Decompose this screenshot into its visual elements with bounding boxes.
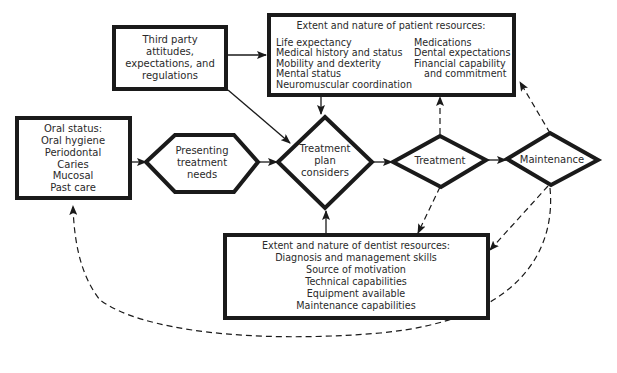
patient-resource-item: Neuromuscular coordination (276, 79, 412, 90)
edge-maintenance-to-dentist-resources (490, 186, 548, 250)
presenting-line: Presenting (176, 145, 229, 156)
presenting-line: needs (187, 169, 217, 180)
node-treatment: Treatment (393, 136, 486, 187)
dentist-resource-item: Maintenance capabilities (296, 300, 415, 311)
third-party-line: expectations, and (125, 58, 214, 69)
node-treatment-plan: Treatment plan considers (278, 117, 372, 208)
treatment-plan-line: considers (301, 167, 349, 178)
edge-treatment-to-dentist-resources (418, 187, 440, 233)
third-party-line: regulations (142, 70, 198, 81)
node-third-party: Third party attitudes, expectations, and… (114, 27, 226, 89)
presenting-line: treatment (177, 157, 227, 168)
node-maintenance: Maintenance (507, 133, 598, 185)
treatment-plan-line: Treatment (299, 143, 351, 154)
oral-status-line: Periodontal (45, 147, 101, 158)
maintenance-label: Maintenance (520, 154, 584, 165)
patient-resource-item: Dental expectations (414, 47, 510, 58)
oral-status-line: Past care (50, 182, 96, 193)
node-dentist-resources: Extent and nature of dentist resources: … (225, 235, 488, 318)
patient-resources-title: Extent and nature of patient resources: (296, 20, 485, 31)
patient-resource-item: and commitment (424, 68, 507, 79)
dentist-resource-item: Technical capabilities (304, 276, 407, 287)
edge-maintenance-to-patient-resources (520, 82, 550, 133)
node-patient-resources: Extent and nature of patient resources: … (269, 15, 514, 95)
treatment-label: Treatment (414, 155, 466, 166)
patient-resource-item: Medical history and status (276, 47, 402, 58)
dentist-resources-title: Extent and nature of dentist resources: (262, 240, 450, 251)
oral-status-line: Caries (57, 159, 88, 170)
oral-status-line: Oral status: (44, 123, 102, 134)
dentist-resource-item: Source of motivation (306, 264, 406, 275)
patient-resource-item: Mental status (276, 68, 341, 79)
oral-status-line: Mucosal (53, 170, 94, 181)
edge-third-party-to-treatment-plan (228, 90, 290, 143)
flowchart-canvas: Third party attitudes, expectations, and… (0, 0, 617, 373)
third-party-line: Third party (141, 34, 197, 45)
treatment-plan-line: plan (314, 155, 336, 166)
node-oral-status: Oral status: Oral hygiene Periodontal Ca… (17, 118, 130, 198)
node-presenting-treatment-needs: Presenting treatment needs (146, 135, 258, 192)
dentist-resource-item: Diagnosis and management skills (275, 252, 437, 263)
third-party-line: attitudes, (146, 46, 194, 57)
dentist-resource-item: Equipment available (307, 288, 406, 299)
oral-status-line: Oral hygiene (41, 135, 105, 146)
